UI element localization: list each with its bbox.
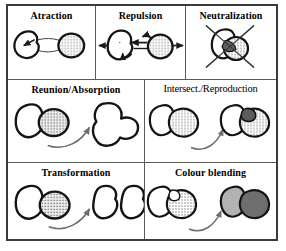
panel-intersect-reproduction: Intersect./Reproduction [145,80,276,163]
panel-art-reunion-absorption [8,97,144,162]
panel-neutralization: Neutralization [186,6,276,80]
panel-art-intersect-reproduction [145,97,276,162]
panel-colour-blending: Colour blending [145,163,276,239]
panel-repulsion: Repulsion [96,6,186,80]
panel-art-neutralization [186,20,276,79]
panel-art-colour-blending [145,180,276,239]
panel-art-attraction [8,20,95,79]
panel-reunion-absorption: Reunion/Absorption [8,80,145,163]
panel-transformation: Transformation [8,163,145,239]
panel-art-transformation [8,180,144,239]
panel-title-reunion-absorption: Reunion/Absorption [8,84,144,95]
panel-art-repulsion [96,20,185,79]
figure-canvas: Atraction [0,0,286,251]
panel-title-intersect-reproduction: Intersect./Reproduction [145,83,276,94]
panel-title-transformation: Transformation [8,167,144,178]
panel-title-colour-blending: Colour blending [145,167,276,178]
diagram-frame: Atraction [6,4,278,241]
panel-attraction: Atraction [8,6,96,80]
